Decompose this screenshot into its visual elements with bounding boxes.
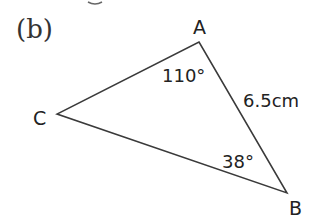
- angle-a-label: 110°: [162, 65, 205, 86]
- part-label: (b): [16, 14, 53, 44]
- side-ab-length: 6.5cm: [243, 90, 299, 111]
- vertex-label-c: C: [33, 107, 46, 129]
- angle-b-label: 38°: [222, 151, 254, 172]
- triangle-diagram: (b) A B C 110° 38° 6.5cm: [0, 0, 315, 219]
- cropped-glyph: [88, 2, 102, 4]
- vertex-label-b: B: [289, 197, 302, 219]
- vertex-label-a: A: [193, 16, 206, 38]
